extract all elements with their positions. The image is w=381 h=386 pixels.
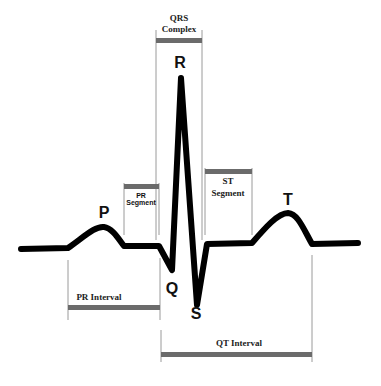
pr-segment-label-2: Segment bbox=[126, 199, 156, 207]
pr-segment-label-1: PR bbox=[136, 192, 146, 199]
qrs-label-2: Complex bbox=[162, 24, 197, 34]
st-segment-label-2: Segment bbox=[212, 188, 245, 198]
pr-interval-label: PR Interval bbox=[76, 292, 122, 302]
pr-interval-bar bbox=[68, 305, 160, 310]
p-wave-label: P bbox=[99, 204, 110, 221]
pr-segment-bar bbox=[124, 184, 159, 189]
r-wave-label: R bbox=[174, 54, 186, 71]
qt-interval-bar bbox=[161, 352, 312, 357]
q-wave-label: Q bbox=[166, 280, 178, 297]
t-wave-label: T bbox=[283, 191, 293, 208]
qt-interval-label: QT Interval bbox=[216, 338, 263, 348]
qrs-label-1: QRS bbox=[170, 13, 189, 23]
ecg-diagram: QRS Complex PR Segment ST Segment PR Int… bbox=[0, 0, 381, 386]
st-segment-label-1: ST bbox=[222, 176, 233, 186]
st-segment-bar bbox=[205, 169, 252, 174]
ecg-trace bbox=[21, 78, 358, 305]
s-wave-label: S bbox=[191, 305, 202, 322]
qrs-bar bbox=[156, 38, 202, 43]
